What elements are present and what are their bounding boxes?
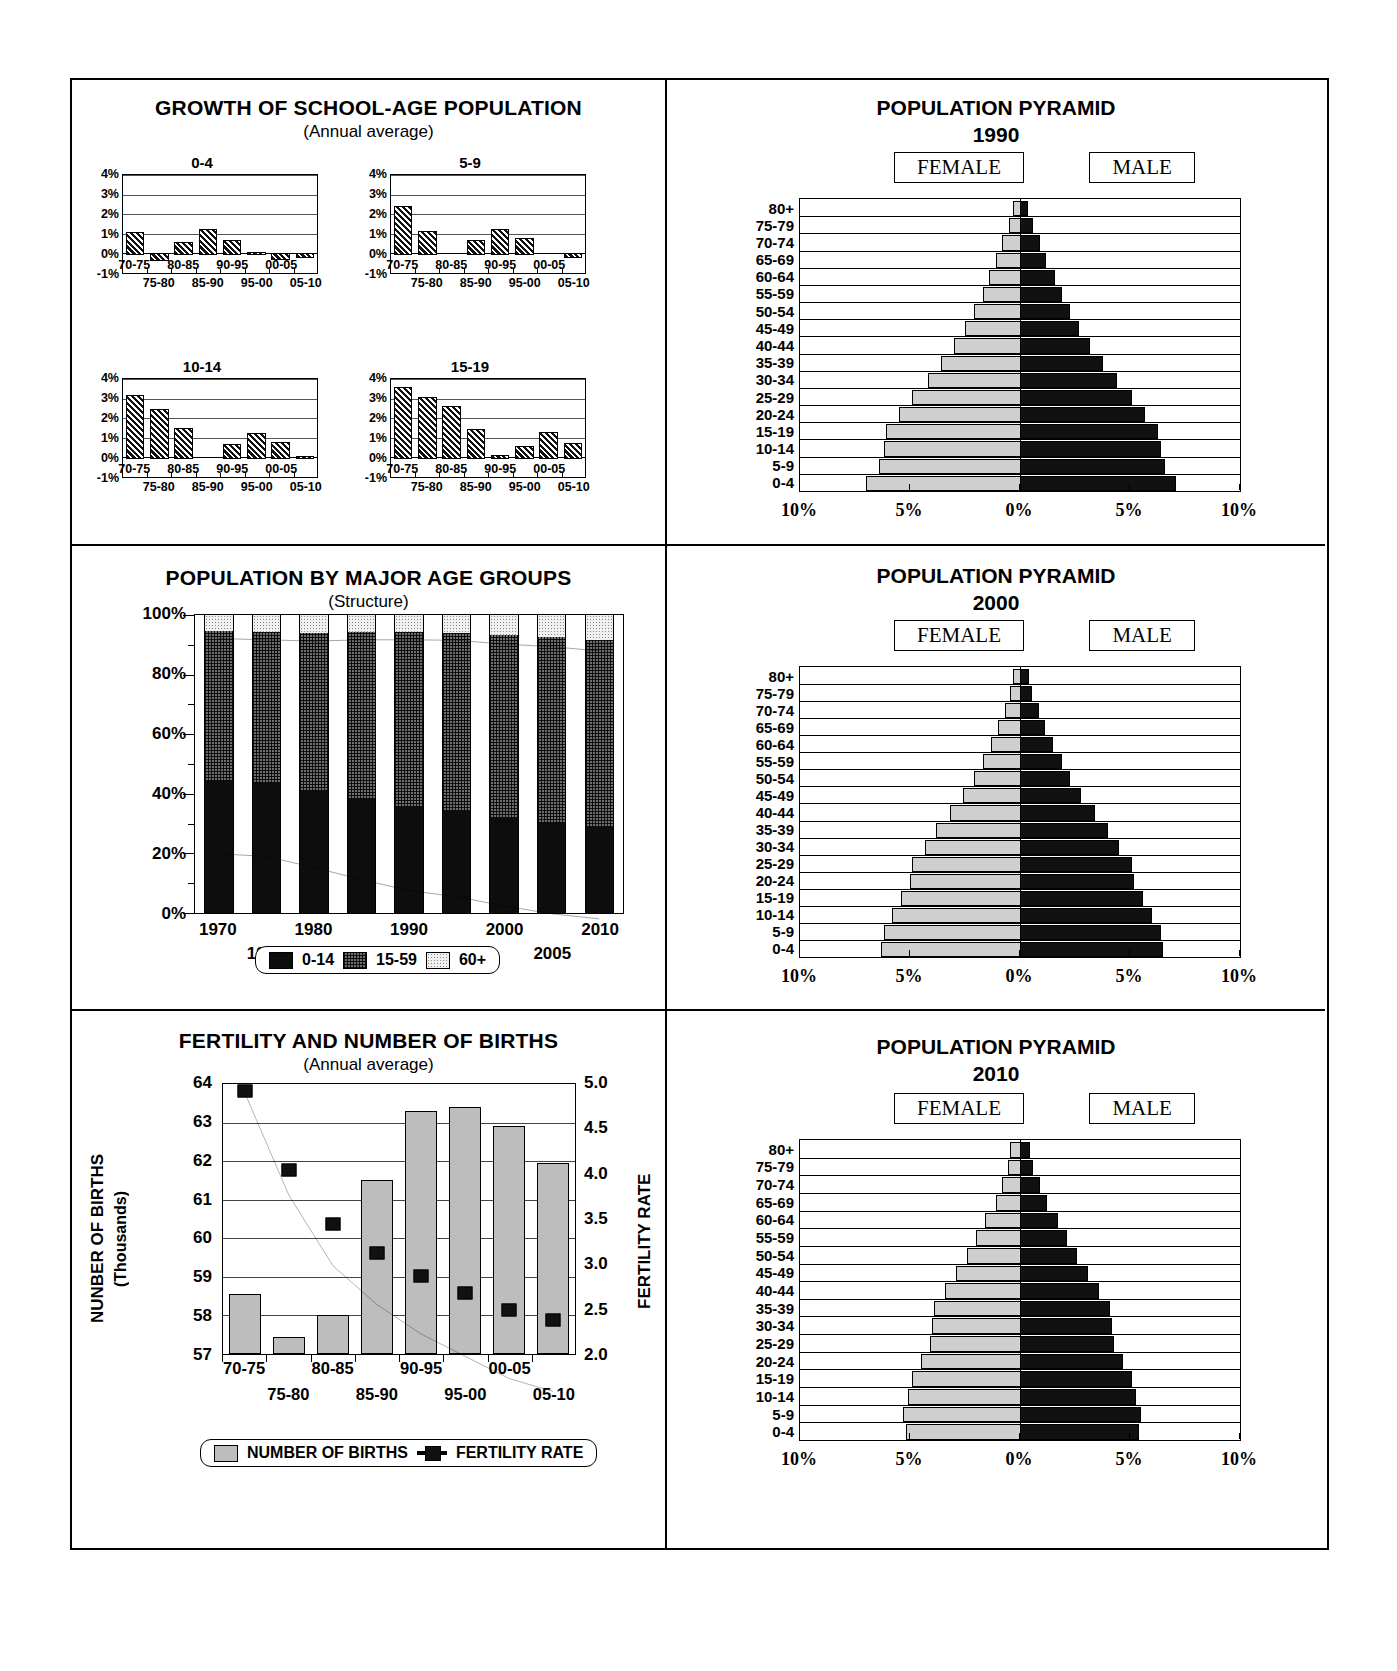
bar <box>174 242 192 256</box>
x-tick <box>294 269 295 274</box>
female-label: FEMALE <box>894 620 1024 651</box>
female-bar <box>930 1336 1022 1352</box>
age-group-label: 55-59 <box>756 752 800 769</box>
y-tick-label: 2% <box>86 411 119 425</box>
male-bar <box>1020 235 1040 250</box>
y-tick-label: 2% <box>354 411 387 425</box>
male-bar <box>1020 686 1032 701</box>
age-group-label: 30-34 <box>756 838 800 855</box>
male-label: MALE <box>1089 1093 1195 1124</box>
fertility-y-axis-label: NUNBER OF BIRTHS <box>88 1143 108 1333</box>
age-group-label: 50-54 <box>756 769 800 786</box>
female-bar <box>976 1230 1022 1246</box>
growth-chart-subtitle: 5-9 <box>354 154 586 171</box>
female-bar <box>912 390 1022 405</box>
y-tick-label: 4% <box>86 371 119 385</box>
legend-label: FERTILITY RATE <box>456 1444 583 1462</box>
x-tick <box>147 473 148 478</box>
female-bar <box>934 1301 1022 1317</box>
x-tick-label: 1970 <box>199 920 237 940</box>
x-tick <box>464 473 465 478</box>
male-bar <box>1020 925 1161 940</box>
female-bar <box>974 304 1022 319</box>
male-bar <box>1020 823 1108 838</box>
x-tick <box>415 473 416 478</box>
figure-page: GROWTH OF SCHOOL-AGE POPULATION (Annual … <box>0 0 1397 1671</box>
fertility-rate-marker <box>546 1313 561 1326</box>
fertility-legend: NUMBER OF BIRTHSFERTILITY RATE <box>200 1439 597 1467</box>
y-tick-label: 40% <box>124 784 186 804</box>
male-bar <box>1020 805 1095 820</box>
y-tick-label: -1% <box>86 471 119 485</box>
female-bar <box>941 356 1022 371</box>
y-tick <box>183 615 195 616</box>
female-bar <box>950 805 1022 820</box>
growth-chart-subtitle: 15-19 <box>354 358 586 375</box>
y-tick-label: -1% <box>86 267 119 281</box>
panel-population-pyramid-1990: POPULATION PYRAMID 1990 FEMALEMALE80+75-… <box>667 80 1325 546</box>
pyramid-plot-area: 80+75-7970-7465-6960-6455-5950-5445-4940… <box>799 666 1241 958</box>
x-tick-label: 70-75 <box>118 258 150 272</box>
bar <box>491 455 509 459</box>
panel-population-pyramid-2010: POPULATION PYRAMID 2010 FEMALEMALE80+75-… <box>667 1011 1325 1548</box>
age-group-label: 30-34 <box>756 1317 800 1334</box>
age-group-label: 5-9 <box>772 457 800 474</box>
y-tick-label: 3% <box>354 187 387 201</box>
panel-fertility-and-number-of-births: FERTILITY AND NUMBER OF BIRTHS (Annual a… <box>72 1011 667 1548</box>
female-bar <box>912 1371 1022 1387</box>
x-tick <box>1019 950 1020 956</box>
female-bar <box>998 720 1022 735</box>
age-group-label: 80+ <box>769 667 800 684</box>
y-tick-label: 80% <box>124 664 186 684</box>
male-bar <box>1020 840 1119 855</box>
male-bar <box>1020 253 1046 268</box>
x-tick-label: 0% <box>1006 966 1033 987</box>
y2-tick-label: 5.0 <box>584 1073 628 1093</box>
male-bar <box>1020 1371 1132 1387</box>
x-tick-label: 2005 <box>533 944 571 964</box>
x-tick-label: 95-00 <box>241 276 273 290</box>
pyramid-2000-title: POPULATION PYRAMID <box>667 564 1325 588</box>
y-tick-label: 63 <box>168 1112 212 1132</box>
legend-label: NUMBER OF BIRTHS <box>247 1444 408 1462</box>
x-tick <box>294 473 295 478</box>
age-group-label: 50-54 <box>756 1246 800 1263</box>
x-tick <box>1019 1433 1020 1439</box>
x-tick <box>266 1355 267 1362</box>
structure-title: POPULATION BY MAJOR AGE GROUPS <box>72 566 665 590</box>
male-bar <box>1020 942 1163 957</box>
y2-tick-label: 4.0 <box>584 1164 628 1184</box>
bar <box>296 456 314 459</box>
bar <box>418 397 436 460</box>
female-bar <box>956 1266 1022 1282</box>
x-tick <box>196 473 197 478</box>
pyramid-1990-title: POPULATION PYRAMID <box>667 96 1325 120</box>
x-tick-label: 90-95 <box>400 1359 442 1378</box>
x-tick-label: 90-95 <box>216 258 248 272</box>
growth-chart-10-14: 10-144%3%2%1%0%-1%70-7575-8080-8585-9090… <box>86 358 318 500</box>
y-minor-tick <box>188 645 195 646</box>
fertility-y-axis-sublabel: (Thousands) <box>112 1179 130 1299</box>
x-tick <box>799 1433 800 1439</box>
growth-chart-subtitle: 0-4 <box>86 154 318 171</box>
x-tick-label: 85-90 <box>192 480 224 494</box>
female-label: FEMALE <box>894 1093 1024 1124</box>
male-bar <box>1020 287 1062 302</box>
x-tick <box>799 484 800 490</box>
male-bar <box>1020 703 1039 718</box>
male-bar <box>1020 304 1070 319</box>
age-group-label: 10-14 <box>756 440 800 457</box>
age-group-label: 55-59 <box>756 1229 800 1246</box>
male-bar <box>1020 407 1145 422</box>
y2-tick-label: 2.0 <box>584 1345 628 1365</box>
x-tick-label: 95-00 <box>509 480 541 494</box>
x-tick <box>1129 950 1130 956</box>
x-tick-label: 00-05 <box>265 462 297 476</box>
male-bar <box>1020 1301 1110 1317</box>
age-group-label: 75-79 <box>756 1158 800 1175</box>
female-bar <box>899 407 1022 422</box>
plot-area <box>194 614 624 914</box>
age-group-label: 70-74 <box>756 701 800 718</box>
x-tick <box>245 269 246 274</box>
age-group-label: 70-74 <box>756 233 800 250</box>
